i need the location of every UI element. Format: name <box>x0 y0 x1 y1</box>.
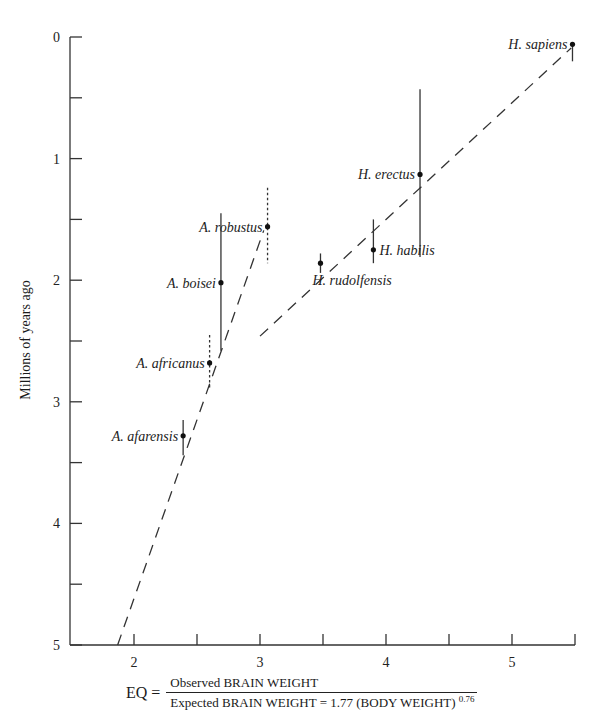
point-label: H. habilis <box>378 243 435 258</box>
scatter-chart: 0123452345 H. sapiensH. erectusH. habili… <box>0 0 611 713</box>
x-tick-label: 2 <box>131 655 138 670</box>
trend-lines <box>118 48 572 645</box>
point-label: H. erectus <box>357 167 416 182</box>
y-tick-label: 0 <box>53 30 60 45</box>
x-tick-label: 3 <box>257 655 264 670</box>
y-axis-label: Millions of years ago <box>18 280 34 399</box>
point-marker <box>318 261 323 266</box>
formula-lhs: EQ = <box>126 684 160 702</box>
x-tick-label: 4 <box>383 655 390 670</box>
point-label: H. rudolfensis <box>311 273 392 288</box>
axes: 0123452345 <box>53 30 575 670</box>
data-point: A. robustus <box>198 188 270 263</box>
point-marker <box>371 247 376 252</box>
y-tick-label: 3 <box>53 395 60 410</box>
data-points: H. sapiensH. erectusH. habilisH. rudolfe… <box>111 37 575 455</box>
point-marker <box>417 172 422 177</box>
point-marker <box>570 42 575 47</box>
data-point: H. erectus <box>357 89 423 257</box>
data-point: H. rudolfensis <box>311 253 392 288</box>
formula-denominator: Expected BRAIN WEIGHT = 1.77 (BODY WEIGH… <box>166 693 476 711</box>
y-tick-label: 2 <box>53 273 60 288</box>
data-point: A. afarensis <box>111 420 186 455</box>
point-label: A. africanus <box>135 356 205 371</box>
point-marker <box>207 360 212 365</box>
trend-line <box>260 48 571 336</box>
point-marker <box>181 433 186 438</box>
point-marker <box>265 224 270 229</box>
formula-numerator: Observed BRAIN WEIGHT <box>166 675 476 693</box>
y-tick-label: 4 <box>53 516 60 531</box>
data-point: A. africanus <box>135 335 212 390</box>
data-point: H. habilis <box>371 219 435 263</box>
formula-fraction: Observed BRAIN WEIGHT Expected BRAIN WEI… <box>166 675 476 711</box>
point-label: A. robustus <box>198 220 263 235</box>
y-tick-label: 5 <box>53 638 60 653</box>
formula-exponent: 0.76 <box>459 694 475 704</box>
x-tick-label: 5 <box>509 655 516 670</box>
x-axis-formula: EQ = Observed BRAIN WEIGHT Expected BRAI… <box>126 675 477 711</box>
y-tick-label: 1 <box>53 152 60 167</box>
point-label: A. afarensis <box>111 429 179 444</box>
point-label: A. boisei <box>166 276 216 291</box>
data-point: H. sapiens <box>507 37 575 61</box>
formula-denominator-text: Expected BRAIN WEIGHT = 1.77 (BODY WEIGH… <box>170 695 455 710</box>
point-marker <box>218 280 223 285</box>
point-label: H. sapiens <box>507 37 568 52</box>
